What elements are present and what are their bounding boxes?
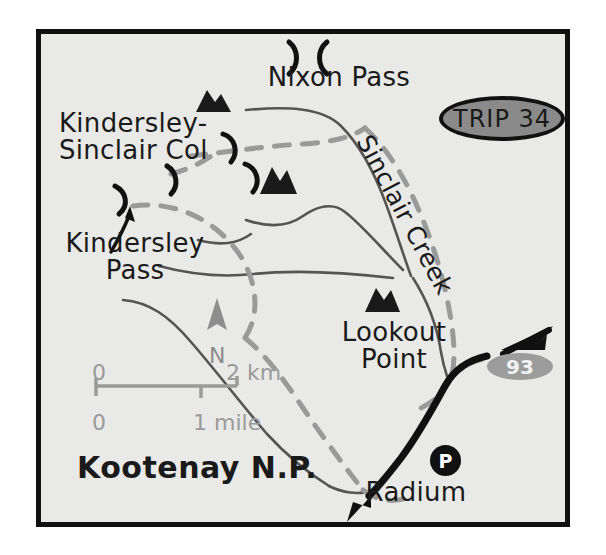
label-kindersley-pass: Kindersley Pass [55,230,215,285]
compass-north-label: N [209,344,226,367]
stream-network [123,108,447,493]
label-radium: Radium [341,479,491,506]
compass-arrow-icon [207,298,227,330]
pass-col-arc-c [167,166,176,194]
peak-central-icon [260,167,297,194]
pass-col-arc-a [223,134,235,162]
parking-marker-label: P [439,450,453,472]
trail-network [133,128,454,500]
scale-bar-graphic [96,376,237,398]
parking-marker-icon: P [430,445,461,476]
scale-km-max-label: 2 km [226,360,281,385]
trip-number-badge: TRIP 34 [439,96,565,141]
scale-mile-zero-label: 0 [92,410,106,435]
peak-lookout-icon [365,288,400,312]
pass-col-arc-b [245,164,257,192]
scale-km-zero-label: 0 [92,360,106,385]
trail-col-ridge [191,128,365,156]
peak-symbols [196,90,400,312]
label-lookout-point: Lookout Point [329,319,459,374]
map-page: Kindersley- Sinclair Col Kindersley Pass… [0,0,606,555]
trip-number-badge-label: TRIP 34 [453,105,551,133]
park-name-label: Kootenay N.P. [77,452,317,484]
road-line [369,356,487,496]
scale-mile-max-label: 1 mile [193,410,261,435]
highway-shield-93: 93 [487,353,553,380]
map-frame: Kindersley- Sinclair Col Kindersley Pass… [36,29,570,527]
stream-mid-branch [246,206,403,270]
highway-shield-label: 93 [506,355,534,379]
label-nixon-pass: Nixon Pass [249,64,429,91]
label-kindersley-sinclair-col: Kindersley- Sinclair Col [59,110,208,165]
pass-kindersley-arc [115,186,125,214]
